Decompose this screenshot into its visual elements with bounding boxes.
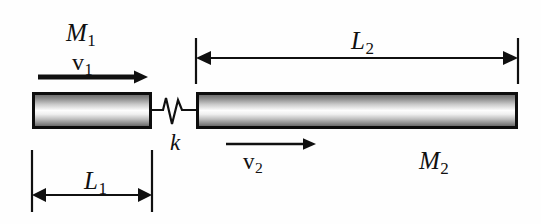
label-velocity-2: v2 bbox=[243, 150, 263, 176]
label-length-1: L1 bbox=[84, 168, 107, 197]
label-velocity-1: v1 bbox=[72, 50, 93, 78]
label-mass-2: M2 bbox=[419, 148, 449, 177]
label-length-2: L2 bbox=[351, 28, 374, 57]
label-mass-1: M1 bbox=[66, 20, 96, 49]
velocity-arrow-2 bbox=[226, 138, 316, 150]
physics-diagram: M1 v1 k v2 M2 L1 L2 bbox=[0, 0, 541, 224]
velocity-arrow-1 bbox=[38, 71, 148, 84]
label-spring-constant: k bbox=[170, 131, 180, 154]
spring-zigzag-icon bbox=[152, 98, 196, 124]
mass-block-1 bbox=[32, 92, 152, 129]
mass-block-2 bbox=[196, 92, 518, 129]
